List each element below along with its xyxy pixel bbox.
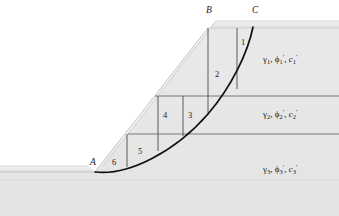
gamma-sub-1: 1 (267, 58, 270, 65)
c-prime-3: ′ (296, 163, 298, 171)
crest-band-fill (208, 21, 339, 28)
slice-number-1: 1 (241, 38, 245, 47)
left-band-fill (0, 166, 95, 172)
diagram-canvas (0, 0, 339, 216)
slice-number-2: 2 (215, 70, 219, 79)
c-prime-1: ′ (296, 53, 298, 61)
phi-prime-3: ′ (283, 163, 285, 171)
gamma-sub-2: 2 (267, 113, 270, 120)
phi-prime-2: ′ (283, 108, 285, 116)
slice-number-6: 6 (112, 158, 116, 167)
soil-params-layer-3: γ3, ϕ3′, c3′ (263, 165, 298, 174)
soil-params-layer-1: γ1, ϕ1′, c1′ (263, 55, 298, 64)
point-label-b: B (206, 6, 212, 16)
slice-number-3: 3 (188, 111, 192, 120)
gamma-sub-3: 3 (267, 168, 270, 175)
point-label-c: C (252, 6, 258, 16)
phi-prime-1: ′ (283, 53, 285, 61)
c-prime-2: ′ (296, 108, 298, 116)
slice-number-5: 5 (138, 147, 142, 156)
slice-number-4: 4 (163, 111, 167, 120)
soil-params-layer-2: γ2, ϕ2′, c2′ (263, 110, 298, 119)
point-label-a: A (90, 158, 96, 168)
slope-stability-diagram: A B C 1 2 3 4 5 6 γ1, ϕ1′, c1′ γ2, ϕ2′, … (0, 0, 339, 216)
crest-top-band (208, 21, 339, 28)
